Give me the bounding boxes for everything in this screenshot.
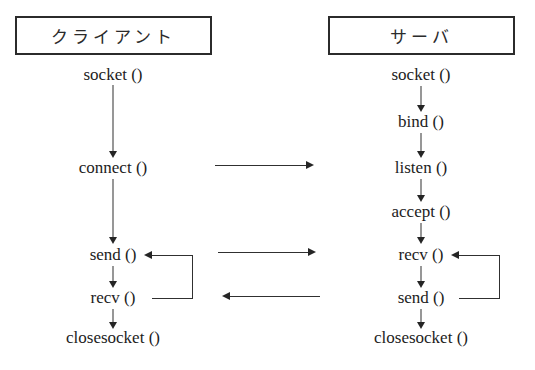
- server-arrow-socket-to-bind-head: [417, 105, 425, 112]
- server-loop-right-line: [499, 255, 500, 299]
- client-step-send: send (): [90, 245, 137, 265]
- client-send-to-server-recv-line: [218, 252, 310, 253]
- server-step-closesocket: closesocket (): [374, 328, 468, 348]
- server-send-to-client-recv-line: [230, 296, 320, 297]
- server-arrow-send-to-closesocket-line: [421, 309, 422, 322]
- server-arrow-bind-to-listen-line: [421, 133, 422, 151]
- server-step-listen: listen (): [395, 158, 447, 178]
- server-loop-top-line: [459, 255, 500, 256]
- server-loop-arrow-head: [451, 251, 459, 259]
- server-arrow-accept-to-recv-line: [421, 223, 422, 237]
- client-send-to-server-recv-head: [308, 248, 316, 256]
- server-arrow-listen-to-accept-line: [421, 179, 422, 195]
- client-loop-bottom-line: [152, 298, 193, 299]
- client-step-connect: connect (): [79, 158, 147, 178]
- client-arrow-recv-to-closesocket-line: [113, 309, 114, 322]
- connect-to-listen-line: [215, 165, 308, 166]
- server-arrow-send-to-closesocket-head: [417, 322, 425, 329]
- client-arrow-connect-to-send-line: [113, 179, 114, 237]
- socket-api-sequence-diagram: クライアント サーバ socket () connect () send () …: [0, 0, 535, 370]
- server-step-recv: recv (): [399, 245, 444, 265]
- client-step-recv: recv (): [91, 288, 136, 308]
- server-arrow-recv-to-send-line: [421, 266, 422, 281]
- client-arrow-recv-to-closesocket-head: [109, 322, 117, 329]
- client-arrow-connect-to-send-head: [109, 237, 117, 244]
- server-arrow-bind-to-listen-head: [417, 151, 425, 158]
- client-arrow-socket-to-connect-head: [109, 151, 117, 158]
- server-step-accept: accept (): [392, 202, 451, 222]
- server-loop-bottom-line: [459, 298, 500, 299]
- client-step-closesocket: closesocket (): [66, 328, 160, 348]
- client-header-label: クライアント: [51, 23, 176, 48]
- server-header-box: サーバ: [328, 16, 515, 55]
- client-loop-right-line: [192, 255, 193, 299]
- client-arrow-send-to-recv-line: [113, 266, 114, 281]
- server-send-to-client-recv-head: [222, 292, 230, 300]
- server-arrow-recv-to-send-head: [417, 281, 425, 288]
- server-step-send: send (): [398, 288, 445, 308]
- server-step-socket: socket (): [391, 65, 450, 85]
- client-header-box: クライアント: [15, 16, 212, 55]
- client-step-socket: socket (): [83, 65, 142, 85]
- server-arrow-accept-to-recv-head: [417, 237, 425, 244]
- server-header-label: サーバ: [390, 23, 453, 48]
- client-loop-top-line: [152, 255, 193, 256]
- connect-to-listen-head: [306, 161, 314, 169]
- client-arrow-send-to-recv-head: [109, 281, 117, 288]
- server-arrow-socket-to-bind-line: [421, 86, 422, 105]
- client-loop-arrow-head: [144, 251, 152, 259]
- server-arrow-listen-to-accept-head: [417, 195, 425, 202]
- server-step-bind: bind (): [398, 112, 444, 132]
- client-arrow-socket-to-connect-line: [113, 85, 114, 151]
